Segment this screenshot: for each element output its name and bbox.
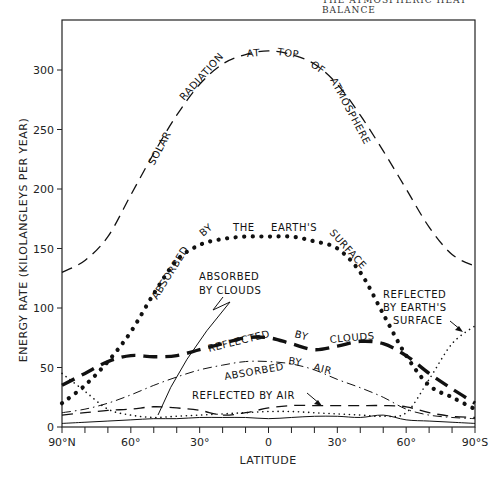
y-axis: 050100150200250300: [33, 64, 62, 434]
y-tick-label: 200: [33, 183, 54, 196]
solar-word-4: TOP: [276, 46, 300, 60]
series-line-6: [62, 415, 475, 423]
y-tick-label: 100: [33, 302, 54, 315]
y-tick-label: 50: [40, 362, 54, 375]
x-tick-label: 0: [265, 436, 272, 449]
abs-clouds-line-1: ABSORBED: [199, 271, 259, 282]
y-tick-label: 300: [33, 64, 54, 77]
abs-air-word-2: BY: [288, 355, 303, 368]
refl-clouds-word-2: BY: [293, 328, 309, 342]
y-tick-label: 250: [33, 124, 54, 137]
y-axis-title: ENERGY RATE (KILOLANGLEYS PER YEAR): [17, 118, 30, 362]
refl-clouds-label: REFLECTED BY CLOUDS: [207, 328, 375, 354]
solar-word-5: OF: [309, 59, 327, 77]
solar-word-3: AT: [246, 47, 261, 59]
refl-air-label: REFLECTED BY AIR: [192, 390, 322, 406]
refl-surface-line-3: SURFACE: [393, 315, 443, 326]
series-line-0: [62, 51, 475, 272]
x-tick-label: 90°S: [462, 436, 488, 449]
energy-chart: 050100150200250300 90°N60°30°030°60°90°S…: [0, 0, 503, 479]
refl-surface-line-2: BY EARTH'S: [383, 302, 447, 313]
solar-word-1: SOLAR: [146, 129, 173, 167]
surface-word-1: ABSORBED: [149, 244, 190, 301]
x-tick-label: 30°: [328, 436, 348, 449]
solar-word-2: RADIATION: [177, 50, 225, 102]
surface-word-3: THE: [232, 222, 255, 233]
abs-air-word-3: AIR: [313, 361, 334, 376]
surface-word-4: EARTH'S: [271, 222, 317, 233]
x-tick-label: 60°: [121, 436, 141, 449]
surface-word-5: SURFACE: [328, 227, 369, 271]
abs-air-label: ABSORBED BY AIR: [223, 355, 333, 382]
refl-surface-line-1: REFLECTED: [383, 289, 446, 300]
x-axis: 90°N60°30°030°60°90°S: [48, 427, 488, 449]
x-axis-title: LATITUDE: [239, 454, 296, 467]
refl-clouds-word-1: REFLECTED: [207, 328, 271, 354]
x-tick-label: 60°: [396, 436, 416, 449]
y-tick-label: 0: [47, 421, 54, 434]
abs-air-word-1: ABSORBED: [223, 361, 284, 382]
refl-air-text: REFLECTED BY AIR: [192, 390, 295, 401]
refl-surface-label: REFLECTED BY EARTH'S SURFACE: [383, 289, 463, 332]
y-tick-label: 150: [33, 243, 54, 256]
solar-word-6: ATMOSPHERE: [328, 76, 373, 147]
x-tick-label: 90°N: [48, 436, 76, 449]
abs-clouds-line-2: BY CLOUDS: [199, 285, 261, 296]
surface-word-2: BY: [197, 221, 215, 238]
x-tick-label: 30°: [190, 436, 210, 449]
solar-label: SOLAR RADIATION AT TOP OF ATMOSPHERE: [146, 46, 373, 167]
